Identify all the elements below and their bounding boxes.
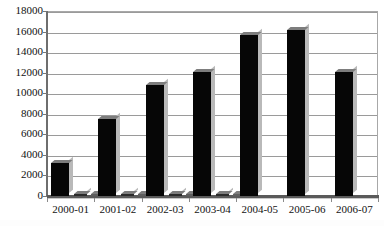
x-axis-tick-mark xyxy=(47,198,48,202)
x-axis-tick-mark xyxy=(189,198,190,202)
bar-series-2 xyxy=(74,194,87,196)
x-axis-tick-mark xyxy=(378,198,379,202)
bar-series-1 xyxy=(146,85,164,196)
bar-series-1 xyxy=(335,72,353,196)
bar-series-1 xyxy=(51,163,69,196)
x-axis-label: 2001-02 xyxy=(94,203,141,215)
bar-series-2 xyxy=(169,194,182,196)
y-axis-label: 0 xyxy=(0,190,43,201)
bar-top-face xyxy=(98,116,120,119)
bar-top-face xyxy=(193,69,215,72)
bar-series-1 xyxy=(98,119,116,196)
y-axis-label: 14000 xyxy=(0,46,43,57)
bar-top-face xyxy=(146,82,168,85)
bar-series-1 xyxy=(287,30,305,197)
gridline xyxy=(48,12,377,13)
y-axis-line xyxy=(46,11,48,197)
bar-top-face xyxy=(335,69,357,72)
gridline xyxy=(48,33,377,34)
y-axis-label: 8000 xyxy=(0,108,43,119)
bar-side-face xyxy=(211,66,215,193)
bar-series-2 xyxy=(121,194,134,196)
x-axis-shadow xyxy=(47,198,379,199)
x-axis-tick-mark xyxy=(331,198,332,202)
x-axis-label: 2006-07 xyxy=(331,203,378,215)
y-axis-label: 10000 xyxy=(0,87,43,98)
x-axis-tick-mark xyxy=(236,198,237,202)
bar-side-face xyxy=(116,113,120,193)
bar-top-face xyxy=(51,160,73,163)
bar-series-1 xyxy=(193,72,211,196)
y-axis-label: 18000 xyxy=(0,5,43,16)
bar-top-face xyxy=(240,32,262,35)
bar-series-2 xyxy=(216,194,229,196)
x-axis-tick-mark xyxy=(142,198,143,202)
bar-side-face xyxy=(164,79,168,193)
y-axis-label: 4000 xyxy=(0,149,43,160)
bar-chart: 0200040006000800010000120001400016000180… xyxy=(0,0,384,226)
bar-side-face xyxy=(258,29,262,193)
bar-side-face xyxy=(305,23,309,193)
chart-title-cropped xyxy=(0,0,384,1)
bar-series-1 xyxy=(240,35,258,196)
bar-top-face xyxy=(287,27,309,30)
x-axis-tick-mark xyxy=(94,198,95,202)
x-axis-label: 2004-05 xyxy=(236,203,283,215)
scan-noise-band xyxy=(0,220,384,226)
y-axis-label: 2000 xyxy=(0,169,43,180)
gridline xyxy=(48,53,377,54)
bar-side-face xyxy=(353,66,357,193)
y-axis-label: 6000 xyxy=(0,128,43,139)
x-axis-label: 2000-01 xyxy=(47,203,94,215)
y-axis-label: 16000 xyxy=(0,26,43,37)
x-axis-label: 2003-04 xyxy=(189,203,236,215)
x-axis-label: 2002-03 xyxy=(142,203,189,215)
x-axis-tick-mark xyxy=(283,198,284,202)
y-axis-label: 12000 xyxy=(0,67,43,78)
x-axis-label: 2005-06 xyxy=(283,203,330,215)
